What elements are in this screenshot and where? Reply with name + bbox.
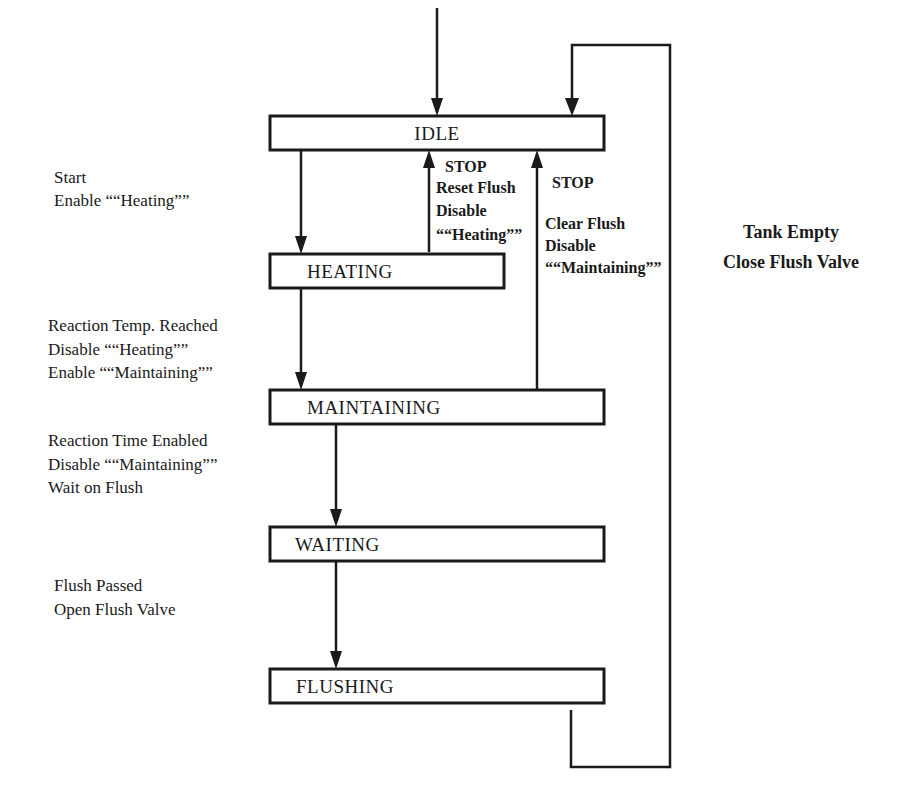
- state-maintaining: MAINTAINING: [270, 390, 604, 424]
- note-line: STOP: [552, 174, 594, 191]
- note-idle-to-heating: Start Enable ““Heating””: [54, 168, 189, 210]
- note-heating-to-idle: STOP Reset Flush Disable ““Heating””: [436, 158, 522, 244]
- note-line: ““Heating””: [436, 226, 522, 244]
- note-line: Wait on Flush: [48, 478, 143, 497]
- transition-heating-to-maintaining: [295, 288, 307, 390]
- note-maintaining-to-idle: STOP Clear Flush Disable ““Maintaining””: [545, 174, 661, 277]
- state-label: IDLE: [414, 123, 459, 144]
- note-line: Clear Flush: [545, 215, 625, 232]
- note-line: Disable ““Heating””: [48, 340, 188, 359]
- note-maintaining-to-waiting: Reaction Time Enabled Disable ““Maintain…: [48, 431, 217, 497]
- note-heating-to-maintaining: Reaction Temp. Reached Disable ““Heating…: [48, 316, 218, 382]
- state-label: WAITING: [295, 534, 380, 555]
- note-line: Disable: [436, 202, 487, 219]
- note-line: Reset Flush: [436, 179, 516, 196]
- state-label: MAINTAINING: [307, 397, 441, 418]
- note-line: Reaction Temp. Reached: [48, 316, 218, 335]
- note-waiting-to-flushing: Flush Passed Open Flush Valve: [54, 576, 176, 619]
- note-line: Enable ““Maintaining””: [48, 363, 213, 382]
- transition-waiting-to-flushing: [330, 561, 342, 669]
- note-line: Enable ““Heating””: [54, 191, 189, 210]
- note-line: Open Flush Valve: [54, 600, 176, 619]
- transition-maintaining-to-waiting: [330, 424, 342, 527]
- note-line: Flush Passed: [54, 576, 143, 595]
- note-line: ““Maintaining””: [545, 259, 661, 277]
- state-idle: IDLE: [270, 116, 604, 150]
- transition-idle-to-heating: [295, 150, 307, 254]
- note-line: Close Flush Valve: [723, 252, 859, 272]
- transition-heating-to-idle: [423, 150, 435, 252]
- state-waiting: WAITING: [270, 527, 604, 561]
- note-line: Reaction Time Enabled: [48, 431, 208, 450]
- state-label: HEATING: [307, 261, 393, 282]
- entry-arrow: [431, 8, 443, 116]
- transition-maintaining-to-idle: [531, 150, 543, 390]
- state-flushing: FLUSHING: [270, 669, 604, 703]
- state-label: FLUSHING: [296, 676, 394, 697]
- note-line: Tank Empty: [743, 222, 839, 242]
- note-line: Disable: [545, 237, 596, 254]
- note-line: Disable ““Maintaining””: [48, 455, 217, 474]
- note-line: STOP: [445, 158, 487, 175]
- note-flushing-to-idle: Tank Empty Close Flush Valve: [723, 222, 859, 272]
- state-heating: HEATING: [270, 254, 504, 288]
- note-line: Start: [54, 168, 86, 187]
- state-diagram: IDLE HEATING MAINTAINING WAITING FLUSHIN…: [0, 0, 923, 803]
